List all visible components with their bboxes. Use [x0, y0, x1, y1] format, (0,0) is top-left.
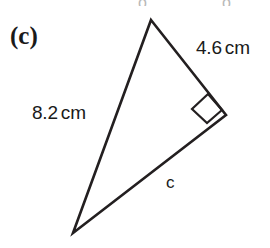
side-a-unit: cm	[225, 37, 250, 58]
side-a-value: 4.6	[196, 37, 222, 58]
side-length-label-left: 8.2cm	[32, 103, 86, 122]
side-length-label-hypotenuse: c	[166, 174, 175, 191]
right-angle-marker-icon	[192, 94, 222, 123]
side-b-value: 8.2	[32, 102, 58, 123]
side-length-label-upper-right: 4.6cm	[196, 38, 250, 57]
geometry-figure: o o (c) 4.6cm 8.2cm c	[0, 0, 270, 248]
side-b-unit: cm	[61, 102, 86, 123]
part-label: (c)	[10, 23, 38, 48]
